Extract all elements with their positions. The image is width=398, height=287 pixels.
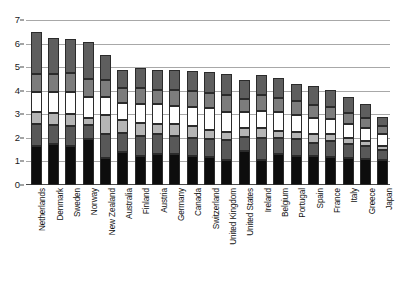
bar-segment — [48, 125, 59, 144]
bar-segment — [308, 118, 319, 135]
bar-segment — [135, 136, 146, 156]
bar — [117, 70, 128, 186]
bar-segment — [169, 106, 180, 124]
bar-segment — [343, 113, 354, 124]
bar-segment — [239, 137, 250, 151]
bar-segment — [31, 112, 42, 124]
bar-segment — [83, 42, 94, 79]
bar-segment — [325, 141, 336, 156]
bar-segment — [343, 144, 354, 158]
x-axis-tick-label: Finland — [143, 188, 151, 214]
bar — [65, 39, 76, 185]
bar-segment — [204, 108, 215, 129]
bar-segment — [100, 55, 111, 80]
bar-segment — [187, 156, 198, 185]
bar-segment — [100, 80, 111, 97]
bar-segment — [169, 124, 180, 136]
bar-segment — [221, 74, 232, 95]
bar-segment — [377, 126, 388, 134]
bar-segment — [152, 90, 163, 104]
bar-segment — [360, 146, 371, 159]
x-axis-tick-label: Spain — [317, 188, 325, 208]
bar-segment — [135, 156, 146, 185]
stacked-bar-chart: 01234567 NetherlandsDenmarkSwedenNorwayN… — [0, 0, 398, 287]
bar-segment — [291, 115, 302, 132]
bar — [204, 72, 215, 185]
bar-segment — [48, 144, 59, 185]
y-axis-tick-mark — [20, 43, 24, 44]
bar-segment — [343, 158, 354, 185]
x-axis-tick-label: Switzerland — [213, 188, 221, 229]
bar-segment — [117, 88, 128, 102]
bar-segment — [360, 128, 371, 141]
bar-segment — [169, 70, 180, 90]
bar-segment — [360, 118, 371, 129]
bar-segment — [273, 112, 284, 131]
x-axis-tick-label: United Kingdom — [230, 188, 238, 245]
bar-segment — [377, 146, 388, 150]
x-axis-tick-label: Japan — [386, 188, 394, 210]
y-axis-tick-mark — [20, 67, 24, 68]
bar-segment — [273, 131, 284, 138]
bar-segment — [221, 140, 232, 160]
bar-segment — [31, 74, 42, 92]
bar-segment — [152, 104, 163, 124]
bar — [256, 75, 267, 185]
bar-segment — [152, 154, 163, 185]
bar-segment — [308, 105, 319, 118]
bar-segment — [239, 80, 250, 99]
bar — [187, 71, 198, 185]
bar-segment — [31, 124, 42, 146]
bar-segment — [239, 151, 250, 185]
y-axis-tick-mark — [20, 20, 24, 21]
bar-segment — [256, 75, 267, 95]
bar-segment — [204, 157, 215, 185]
bar-segment — [325, 107, 336, 119]
bar — [100, 55, 111, 185]
x-axis-tick-label: Netherlands — [39, 188, 47, 231]
gridline — [26, 44, 390, 45]
gridline — [26, 20, 390, 21]
bar-segment — [221, 95, 232, 112]
bar-segment — [291, 101, 302, 115]
x-axis-tick-label: Germany — [178, 188, 186, 221]
bar — [343, 97, 354, 185]
bar — [239, 80, 250, 185]
bar-segment — [308, 86, 319, 105]
bar-segment — [343, 124, 354, 138]
y-axis-tick-mark — [20, 161, 24, 162]
x-axis-tick-label: Portugal — [299, 188, 307, 218]
bar-segment — [83, 125, 94, 139]
bar-segment — [325, 134, 336, 141]
y-axis-tick-mark — [20, 137, 24, 138]
x-axis-tick-label: Australia — [126, 188, 134, 219]
bar-segment — [83, 97, 94, 118]
bar-segment — [291, 156, 302, 185]
y-axis-tick-mark — [20, 90, 24, 91]
bar — [291, 84, 302, 185]
bar-segment — [239, 128, 250, 136]
x-axis-tick-label: Ireland — [265, 188, 273, 212]
bar-segment — [360, 159, 371, 185]
bar — [360, 104, 371, 185]
bar-segment — [273, 78, 284, 98]
bar — [48, 38, 59, 185]
bar-segment — [187, 126, 198, 138]
bar — [377, 117, 388, 185]
bar-segment — [325, 157, 336, 185]
bar-segment — [135, 68, 146, 88]
bar-segment — [308, 134, 319, 142]
bar-segment — [187, 138, 198, 156]
plot-area — [26, 20, 390, 185]
bar-segment — [256, 128, 267, 137]
bar-segment — [65, 146, 76, 185]
bar-segment — [117, 103, 128, 121]
x-axis-tick-label: France — [334, 188, 342, 213]
bar-segment — [221, 112, 232, 132]
bar-segment — [152, 134, 163, 154]
bar-segment — [100, 97, 111, 116]
bar-segment — [117, 120, 128, 133]
bar-segment — [221, 160, 232, 185]
bar-segment — [48, 92, 59, 113]
bar-segment — [325, 90, 336, 108]
